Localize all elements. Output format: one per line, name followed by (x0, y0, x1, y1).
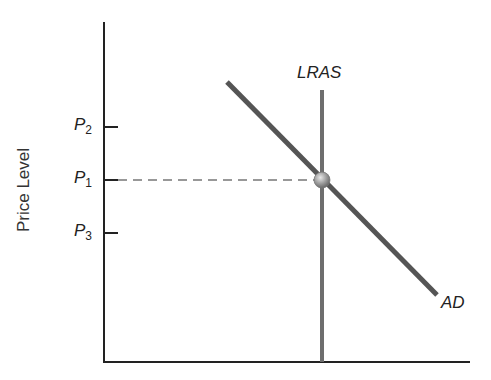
ad-label: AD (441, 293, 465, 313)
p2-letter: P (74, 115, 85, 134)
p3-letter: P (74, 221, 85, 240)
lras-label: LRAS (297, 63, 341, 83)
y-axis-label: Price Level (14, 148, 34, 232)
p1-label: P1 (74, 168, 92, 190)
chart-canvas (0, 0, 491, 380)
p3-subscript: 3 (85, 229, 92, 243)
p1-subscript: 1 (85, 176, 92, 190)
ad-line (227, 82, 437, 295)
p1-letter: P (74, 168, 85, 187)
equilibrium-point (314, 172, 330, 188)
p2-label: P2 (74, 115, 92, 137)
p2-subscript: 2 (85, 123, 92, 137)
p3-label: P3 (74, 221, 92, 243)
